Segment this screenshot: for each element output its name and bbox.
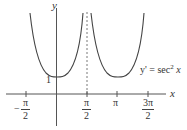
y-axis-label: y	[52, 0, 57, 11]
sec-squared-curve-right	[91, 13, 144, 77]
minus-sign: −	[14, 104, 20, 114]
tick-label-neg-pi-half: π2	[21, 98, 30, 121]
y-tick-1: 1	[46, 75, 51, 85]
tick-label-pi-half: π2	[82, 98, 91, 121]
tick-label-3pi-half: 3π2	[142, 98, 154, 121]
x-axis-label: x	[170, 88, 175, 99]
tick-label-pi: π	[113, 98, 118, 108]
curve-label: y' = sec2 x	[140, 64, 181, 75]
